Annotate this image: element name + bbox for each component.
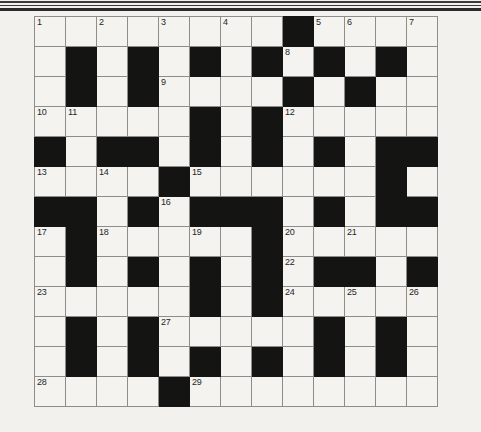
crossword-cell[interactable] bbox=[97, 77, 128, 107]
crossword-cell[interactable] bbox=[97, 257, 128, 287]
crossword-cell[interactable] bbox=[128, 227, 159, 257]
crossword-cell[interactable] bbox=[376, 107, 407, 137]
crossword-cell[interactable]: 7 bbox=[407, 17, 438, 47]
crossword-cell[interactable]: 9 bbox=[159, 77, 190, 107]
crossword-cell[interactable] bbox=[407, 47, 438, 77]
crossword-cell[interactable] bbox=[283, 377, 314, 407]
crossword-cell[interactable]: 26 bbox=[407, 287, 438, 317]
crossword-cell[interactable]: 3 bbox=[159, 17, 190, 47]
crossword-cell[interactable] bbox=[345, 47, 376, 77]
crossword-cell[interactable] bbox=[97, 47, 128, 77]
crossword-cell[interactable] bbox=[159, 257, 190, 287]
crossword-cell[interactable] bbox=[407, 377, 438, 407]
crossword-cell[interactable] bbox=[376, 287, 407, 317]
crossword-cell[interactable] bbox=[345, 137, 376, 167]
crossword-cell[interactable]: 4 bbox=[221, 17, 252, 47]
crossword-cell[interactable] bbox=[376, 17, 407, 47]
crossword-cell[interactable] bbox=[128, 377, 159, 407]
crossword-grid[interactable]: 1234567891011121314151617181920212223242… bbox=[34, 16, 438, 407]
crossword-cell[interactable]: 28 bbox=[35, 377, 66, 407]
crossword-cell[interactable] bbox=[190, 17, 221, 47]
crossword-cell[interactable]: 11 bbox=[66, 107, 97, 137]
crossword-cell[interactable]: 8 bbox=[283, 47, 314, 77]
crossword-cell[interactable] bbox=[128, 167, 159, 197]
crossword-cell[interactable] bbox=[407, 227, 438, 257]
crossword-cell[interactable]: 1 bbox=[35, 17, 66, 47]
crossword-cell[interactable]: 6 bbox=[345, 17, 376, 47]
crossword-cell[interactable] bbox=[97, 317, 128, 347]
crossword-cell[interactable] bbox=[221, 167, 252, 197]
crossword-cell[interactable] bbox=[66, 287, 97, 317]
crossword-cell[interactable] bbox=[35, 77, 66, 107]
crossword-cell[interactable]: 2 bbox=[97, 17, 128, 47]
crossword-cell[interactable] bbox=[345, 167, 376, 197]
crossword-cell[interactable] bbox=[283, 347, 314, 377]
crossword-cell[interactable] bbox=[66, 137, 97, 167]
crossword-cell[interactable] bbox=[314, 377, 345, 407]
crossword-cell[interactable] bbox=[314, 227, 345, 257]
crossword-cell[interactable] bbox=[376, 77, 407, 107]
crossword-cell[interactable] bbox=[252, 377, 283, 407]
crossword-cell[interactable] bbox=[221, 47, 252, 77]
crossword-cell[interactable] bbox=[66, 167, 97, 197]
crossword-cell[interactable] bbox=[283, 197, 314, 227]
crossword-cell[interactable] bbox=[35, 257, 66, 287]
crossword-cell[interactable] bbox=[283, 167, 314, 197]
crossword-cell[interactable]: 17 bbox=[35, 227, 66, 257]
crossword-cell[interactable]: 13 bbox=[35, 167, 66, 197]
crossword-cell[interactable] bbox=[376, 257, 407, 287]
crossword-cell[interactable] bbox=[221, 227, 252, 257]
crossword-cell[interactable] bbox=[345, 197, 376, 227]
crossword-cell[interactable] bbox=[345, 107, 376, 137]
crossword-cell[interactable]: 20 bbox=[283, 227, 314, 257]
crossword-cell[interactable]: 16 bbox=[159, 197, 190, 227]
crossword-cell[interactable] bbox=[345, 377, 376, 407]
crossword-cell[interactable] bbox=[376, 227, 407, 257]
crossword-cell[interactable]: 18 bbox=[97, 227, 128, 257]
crossword-cell[interactable] bbox=[407, 77, 438, 107]
crossword-cell[interactable] bbox=[159, 107, 190, 137]
crossword-cell[interactable] bbox=[283, 137, 314, 167]
crossword-cell[interactable] bbox=[221, 107, 252, 137]
crossword-cell[interactable] bbox=[252, 167, 283, 197]
crossword-cell[interactable] bbox=[221, 77, 252, 107]
crossword-cell[interactable] bbox=[221, 287, 252, 317]
crossword-cell[interactable] bbox=[345, 347, 376, 377]
crossword-cell[interactable] bbox=[97, 377, 128, 407]
crossword-cell[interactable]: 22 bbox=[283, 257, 314, 287]
crossword-cell[interactable]: 24 bbox=[283, 287, 314, 317]
crossword-cell[interactable] bbox=[221, 377, 252, 407]
crossword-cell[interactable] bbox=[128, 17, 159, 47]
crossword-cell[interactable] bbox=[407, 167, 438, 197]
crossword-cell[interactable] bbox=[190, 317, 221, 347]
crossword-cell[interactable] bbox=[221, 257, 252, 287]
crossword-cell[interactable] bbox=[407, 347, 438, 377]
crossword-cell[interactable] bbox=[190, 77, 221, 107]
crossword-cell[interactable] bbox=[314, 287, 345, 317]
crossword-cell[interactable]: 5 bbox=[314, 17, 345, 47]
crossword-cell[interactable] bbox=[35, 47, 66, 77]
crossword-cell[interactable] bbox=[159, 137, 190, 167]
crossword-cell[interactable]: 27 bbox=[159, 317, 190, 347]
crossword-cell[interactable] bbox=[407, 107, 438, 137]
crossword-cell[interactable] bbox=[128, 287, 159, 317]
crossword-cell[interactable]: 12 bbox=[283, 107, 314, 137]
crossword-cell[interactable] bbox=[35, 317, 66, 347]
crossword-cell[interactable] bbox=[97, 197, 128, 227]
crossword-cell[interactable]: 19 bbox=[190, 227, 221, 257]
crossword-cell[interactable] bbox=[314, 77, 345, 107]
crossword-cell[interactable] bbox=[97, 347, 128, 377]
crossword-cell[interactable] bbox=[221, 137, 252, 167]
crossword-cell[interactable] bbox=[314, 167, 345, 197]
crossword-cell[interactable] bbox=[283, 317, 314, 347]
crossword-cell[interactable] bbox=[159, 347, 190, 377]
crossword-cell[interactable]: 21 bbox=[345, 227, 376, 257]
crossword-cell[interactable]: 10 bbox=[35, 107, 66, 137]
crossword-cell[interactable] bbox=[128, 107, 159, 137]
crossword-cell[interactable]: 14 bbox=[97, 167, 128, 197]
crossword-cell[interactable] bbox=[35, 347, 66, 377]
crossword-cell[interactable] bbox=[97, 287, 128, 317]
crossword-cell[interactable] bbox=[314, 107, 345, 137]
crossword-cell[interactable] bbox=[407, 317, 438, 347]
crossword-cell[interactable]: 15 bbox=[190, 167, 221, 197]
